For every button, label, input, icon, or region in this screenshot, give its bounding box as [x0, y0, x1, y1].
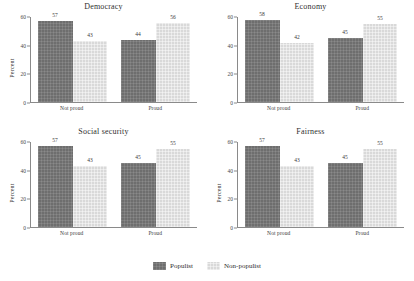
- x-tick-label-proud: Proud: [120, 105, 190, 117]
- bar-value-label: 43: [73, 32, 108, 38]
- panel-economy: Economy 0 20 40 60: [207, 0, 414, 125]
- figure-panel-chart: Democracy Percent 0 20 40 60: [0, 0, 414, 281]
- bar-value-label: 55: [363, 140, 398, 146]
- bar-value-label: 44: [121, 31, 156, 37]
- bar-value-label: 43: [73, 157, 108, 163]
- bar-slot: 58: [245, 17, 280, 102]
- bar-slot: 55: [156, 142, 191, 227]
- y-tick-label: 60: [21, 14, 27, 20]
- axis-area: 0 20 40 60 57: [30, 17, 197, 103]
- bar-group-not-proud: 57 43: [38, 142, 108, 227]
- bar-value-label: 55: [156, 140, 191, 146]
- y-tick-label: 20: [228, 71, 234, 77]
- y-tick-mark: [27, 228, 30, 229]
- y-tick-label: 0: [230, 225, 233, 231]
- panel-title: Democracy: [0, 0, 207, 13]
- bar-slot: 45: [328, 142, 363, 227]
- plot-area: Percent 0 20 40 60: [0, 138, 207, 248]
- bar-value-label: 57: [245, 137, 280, 143]
- bar-slot: 43: [280, 142, 315, 227]
- x-axis-line: [237, 102, 404, 103]
- y-tick-mark: [234, 17, 237, 18]
- legend-swatch-populist: [153, 262, 166, 270]
- y-tick-label: 20: [21, 196, 27, 202]
- bar-value-label: 45: [121, 154, 156, 160]
- x-axis-ticks: Not proud Proud: [237, 230, 404, 242]
- plot-area: Percent 0 20 40 60: [207, 138, 414, 248]
- bar-non-populist[interactable]: 55: [363, 149, 398, 227]
- y-tick-mark: [27, 17, 30, 18]
- bar-populist[interactable]: 44: [121, 40, 156, 102]
- y-tick-mark: [234, 170, 237, 171]
- bar-group-not-proud: 58 42: [245, 17, 315, 102]
- bar-slot: 56: [156, 17, 191, 102]
- bar-group-proud: 45 55: [121, 142, 191, 227]
- x-axis-ticks: Not proud Proud: [237, 105, 404, 117]
- panel-title: Social security: [0, 125, 207, 138]
- axis-area: 0 20 40 60 57: [30, 142, 197, 228]
- x-tick-label-not-proud: Not proud: [37, 230, 107, 242]
- y-tick-mark: [234, 103, 237, 104]
- y-tick-mark: [27, 170, 30, 171]
- y-tick-mark: [27, 74, 30, 75]
- x-axis-line: [30, 227, 197, 228]
- legend-label-non-populist: Non-populist: [224, 262, 261, 270]
- y-tick-label: 0: [230, 100, 233, 106]
- bar-non-populist[interactable]: 55: [363, 24, 398, 102]
- y-tick-label: 60: [21, 139, 27, 145]
- y-tick-label: 20: [21, 71, 27, 77]
- legend-item-populist[interactable]: Populist: [153, 262, 193, 270]
- bar-slot: 55: [363, 17, 398, 102]
- legend-item-non-populist[interactable]: Non-populist: [207, 262, 261, 270]
- x-axis-ticks: Not proud Proud: [30, 230, 197, 242]
- y-axis-ticks: 0 20 40 60: [215, 142, 237, 228]
- bars-container: 58 42 45: [238, 17, 404, 102]
- panel-fairness: Fairness Percent 0 20 40 60: [207, 125, 414, 250]
- axis-area: 0 20 40 60 58: [237, 17, 404, 103]
- plot-area: Percent 0 20 40 60: [0, 13, 207, 123]
- y-tick-mark: [27, 142, 30, 143]
- bar-populist[interactable]: 57: [38, 146, 73, 227]
- panel-social-security: Social security Percent 0 20 40 60: [0, 125, 207, 250]
- bar-slot: 44: [121, 17, 156, 102]
- y-tick-mark: [234, 45, 237, 46]
- axis-area: 0 20 40 60 57: [237, 142, 404, 228]
- bar-value-label: 55: [363, 15, 398, 21]
- bar-non-populist[interactable]: 55: [156, 149, 191, 227]
- y-tick-label: 60: [228, 14, 234, 20]
- bar-populist[interactable]: 45: [121, 163, 156, 227]
- y-tick-mark: [234, 74, 237, 75]
- x-tick-label-not-proud: Not proud: [244, 230, 314, 242]
- bar-populist[interactable]: 45: [328, 163, 363, 227]
- bar-group-proud: 45 55: [328, 17, 398, 102]
- x-tick-label-proud: Proud: [120, 230, 190, 242]
- legend-label-populist: Populist: [170, 262, 193, 270]
- bar-non-populist[interactable]: 42: [280, 43, 315, 103]
- bars-container: 57 43 45: [31, 142, 197, 227]
- bar-non-populist[interactable]: 43: [73, 41, 108, 102]
- x-axis-line: [237, 227, 404, 228]
- bar-value-label: 45: [328, 154, 363, 160]
- bar-group-not-proud: 57 43: [38, 17, 108, 102]
- bar-slot: 45: [121, 142, 156, 227]
- bar-populist[interactable]: 58: [245, 20, 280, 102]
- bar-non-populist[interactable]: 43: [73, 166, 108, 227]
- panel-title: Fairness: [207, 125, 414, 138]
- y-tick-label: 40: [228, 168, 234, 174]
- panel-title: Economy: [207, 0, 414, 13]
- bars-container: 57 43 44: [31, 17, 197, 102]
- bar-populist[interactable]: 45: [328, 38, 363, 102]
- bar-populist[interactable]: 57: [245, 146, 280, 227]
- plot-area: 0 20 40 60 58: [207, 13, 414, 123]
- y-tick-label: 0: [23, 100, 26, 106]
- y-tick-label: 40: [228, 43, 234, 49]
- y-tick-label: 40: [21, 168, 27, 174]
- bar-populist[interactable]: 57: [38, 21, 73, 102]
- bar-non-populist[interactable]: 56: [156, 23, 191, 102]
- x-tick-label-proud: Proud: [327, 105, 397, 117]
- bar-slot: 57: [245, 142, 280, 227]
- bar-slot: 57: [38, 17, 73, 102]
- y-tick-label: 60: [228, 139, 234, 145]
- chart-legend: Populist Non-populist: [0, 250, 414, 281]
- bar-non-populist[interactable]: 43: [280, 166, 315, 227]
